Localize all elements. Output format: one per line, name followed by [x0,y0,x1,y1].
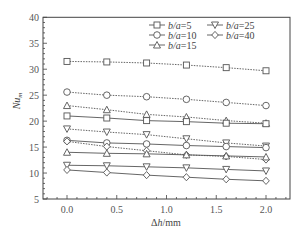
x-tick-label: 2.0 [260,204,273,215]
square-marker [144,118,150,124]
y-axis: 510152025303540 [29,12,47,205]
series-line [64,126,270,150]
x-axis: 0.00.51.01.52.0 [47,195,286,215]
legend: b/a=5b/a=25b/a=10b/a=40b/a=15 [149,20,254,51]
series-line [64,102,270,126]
circle-marker [154,32,161,39]
series-path [67,141,266,159]
triangle-down-marker [64,126,71,133]
series-line [64,149,270,160]
square-marker [144,60,150,66]
square-marker [223,120,229,126]
x-tick-label: 0.0 [61,204,74,215]
square-marker [183,119,189,125]
triangle-up-marker [103,106,110,113]
series-line [64,138,270,163]
diamond-marker [104,169,111,176]
legend-item: b/a=15 [149,40,196,51]
circle-marker [104,92,111,99]
y-tick-label: 10 [29,168,39,179]
square-marker [154,22,160,28]
series-line [64,58,269,73]
square-marker [263,68,269,74]
x-axis-label: Δh/mm [151,217,181,228]
y-tick-label: 15 [29,142,39,153]
series-line [64,89,270,109]
diamond-marker [143,172,150,179]
series-path [67,92,266,105]
square-marker [263,121,269,127]
series-line [64,162,270,174]
plot-border [43,17,290,199]
series-line [64,113,269,127]
series-line [64,137,270,151]
series-path [67,116,266,124]
triangle-up-marker [64,102,71,109]
y-tick-label: 20 [29,116,39,127]
square-marker [104,59,110,65]
square-marker [223,65,229,71]
circle-marker [223,143,230,150]
circle-marker [263,102,270,109]
square-marker [64,113,70,119]
x-tick-label: 0.5 [111,204,124,215]
square-marker [183,62,189,68]
legend-label: b/a=40 [226,30,254,41]
circle-marker [223,99,230,106]
series-line [64,166,270,184]
y-axis-label: Num [11,93,24,111]
y-tick-label: 5 [34,194,39,205]
series-layer [64,58,270,184]
series-path [67,106,266,124]
series-path [67,129,266,146]
triangle-up-marker [143,111,150,118]
series-path [67,165,266,171]
circle-marker [183,96,190,103]
diamond-marker [64,166,71,173]
y-tick-label: 25 [29,90,39,101]
y-tick-label: 40 [29,12,39,23]
y-tick-label: 35 [29,38,39,49]
diamond-marker [212,31,219,38]
series-path [67,170,266,181]
series-path [67,61,266,70]
y-tick-label: 30 [29,64,39,75]
circle-marker [64,89,71,96]
x-tick-label: 1.0 [160,204,173,215]
diamond-marker [183,174,190,181]
plot-frame [43,17,290,199]
legend-label: b/a=15 [168,40,196,51]
circle-marker [143,93,150,100]
x-tick-label: 1.5 [210,204,223,215]
square-marker [104,115,110,121]
diamond-marker [263,177,270,184]
circle-marker [143,141,150,148]
circle-marker [263,144,270,151]
square-marker [64,58,70,64]
diamond-marker [223,176,230,183]
triangle-down-marker [103,129,110,136]
series-path [67,140,266,147]
legend-item: b/a=40 [207,30,254,41]
circle-marker [183,142,190,149]
chart: 510152025303540 0.00.51.01.52.0 b/a=5b/a… [0,0,306,237]
